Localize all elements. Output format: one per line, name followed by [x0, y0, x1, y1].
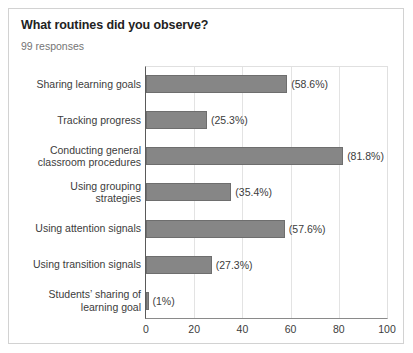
bar-value-label: (81.8%)	[343, 147, 384, 165]
category-axis-labels: Sharing learning goalsTracking progressC…	[15, 66, 141, 319]
x-tick-label: 0	[143, 323, 149, 335]
x-tick-label: 40	[237, 323, 249, 335]
bar[interactable]	[146, 183, 231, 201]
response-count-label: 99 responses	[21, 40, 84, 52]
bar-value-label: (58.6%)	[287, 75, 328, 93]
x-tick-label: 60	[285, 323, 297, 335]
bar[interactable]	[146, 220, 285, 238]
bar-row[interactable]: (1%)	[146, 283, 388, 319]
bar[interactable]	[146, 147, 343, 165]
bar-row[interactable]: (57.6%)	[146, 211, 388, 247]
bar-row[interactable]: (58.6%)	[146, 66, 388, 102]
bar-value-label: (1%)	[149, 292, 175, 310]
bar-row[interactable]: (27.3%)	[146, 247, 388, 283]
category-label: Using grouping strategies	[17, 180, 141, 205]
category-label: Conducting general classroom procedures	[17, 144, 141, 169]
bar[interactable]	[146, 256, 212, 274]
x-tick-label: 20	[188, 323, 200, 335]
bar-row[interactable]: (25.3%)	[146, 102, 388, 138]
category-label: Using transition signals	[17, 258, 141, 271]
category-label: Tracking progress	[17, 114, 141, 127]
bar[interactable]	[146, 111, 207, 129]
bar-row[interactable]: (81.8%)	[146, 138, 388, 174]
bar[interactable]	[146, 75, 287, 93]
bar-value-label: (35.4%)	[231, 183, 272, 201]
category-label: Using attention signals	[17, 222, 141, 235]
bar-value-label: (57.6%)	[285, 220, 326, 238]
bar-row[interactable]: (35.4%)	[146, 174, 388, 210]
bar-chart-plot-area: (58.6%)(25.3%)(81.8%)(35.4%)(57.6%)(27.3…	[145, 66, 388, 319]
bar-value-label: (25.3%)	[207, 111, 248, 129]
category-label: Sharing learning goals	[17, 78, 141, 91]
x-tick-label: 100	[378, 323, 396, 335]
category-label: Students’ sharing of learning goal	[17, 288, 141, 313]
chart-card: What routines did you observe? 99 respon…	[8, 8, 404, 344]
x-tick-label: 80	[333, 323, 345, 335]
bar-value-label: (27.3%)	[212, 256, 253, 274]
page-title: What routines did you observe?	[21, 18, 208, 32]
